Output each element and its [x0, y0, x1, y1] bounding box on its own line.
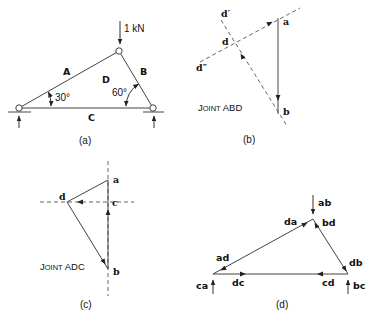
label-da: da [284, 216, 297, 227]
angle-label-30: 30° [55, 92, 70, 103]
arrow-da [296, 224, 305, 229]
point-label-c: c [112, 197, 118, 208]
label-ad: ad [216, 252, 229, 263]
point-label-b: b [283, 106, 290, 117]
caption-d: (d) [276, 299, 288, 310]
label-dc: dc [232, 277, 244, 288]
point-label-d: d [222, 36, 229, 47]
joint-right [150, 105, 156, 111]
load-label: 1 kN [124, 23, 145, 34]
panel-d-force-polygon: ab bd da ad db ca dc cd bc (d) [196, 195, 365, 310]
point-label-b: b [113, 266, 120, 277]
panel-b-joint-abd: d′ d d″ a b JOINT ABD (b) [196, 8, 300, 145]
point-label-d-double-prime: d″ [196, 62, 208, 73]
panel-c-joint-adc: a c d b JOINT ADC (c) [40, 161, 134, 310]
joint-top [116, 48, 122, 54]
joint-title-abd: JOINT ABD [198, 102, 242, 113]
space-label-a: A [63, 66, 71, 77]
point-label-a: a [113, 174, 119, 185]
truss-force-diagram: 1 kN A D B C 30° 60° (a) d′ d d″ a b JOI… [0, 0, 373, 317]
vector-db [67, 202, 108, 269]
joint-left [16, 105, 22, 111]
angle-label-60: 60° [112, 87, 127, 98]
angle-arc-30 [49, 92, 52, 106]
point-label-a: a [283, 16, 289, 27]
label-bc: bc [353, 280, 365, 291]
point-label-d: d [59, 191, 66, 202]
vector-ad [67, 180, 108, 202]
angle-arc-60 [126, 84, 139, 106]
label-bd: bd [322, 217, 336, 228]
member-b-right [119, 51, 153, 108]
space-label-c: C [88, 112, 95, 123]
label-ab: ab [318, 197, 331, 208]
caption-a: (a) [79, 135, 91, 146]
panel-a-truss: 1 kN A D B C 30° 60° (a) [8, 21, 164, 146]
space-label-b: B [140, 66, 147, 77]
label-cd: cd [322, 277, 334, 288]
label-db: db [349, 257, 363, 268]
label-ca: ca [196, 280, 208, 291]
member-left-da [213, 219, 313, 274]
joint-title-adc: JOINT ADC [40, 261, 85, 272]
space-label-d: D [102, 74, 110, 85]
caption-c: (c) [80, 299, 92, 310]
point-label-d-prime: d′ [221, 8, 231, 19]
caption-b: (b) [243, 134, 255, 145]
